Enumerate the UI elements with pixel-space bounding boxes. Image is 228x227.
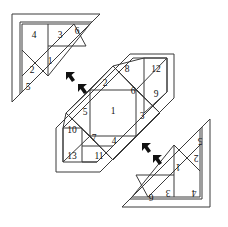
middle-cut-h bbox=[113, 136, 136, 160]
piece-label-md-12: 12 bbox=[151, 64, 161, 74]
piece-label-md-1: 1 bbox=[111, 106, 116, 116]
piece-label-br-2: 2 bbox=[193, 153, 198, 163]
arrow-markers-group bbox=[66, 72, 162, 165]
piece-label-br-5: 5 bbox=[197, 136, 202, 146]
piece-label-br-1: 1 bbox=[175, 162, 180, 172]
piece-label-tl-1: 1 bbox=[48, 56, 53, 66]
piece-label-tl-6: 6 bbox=[75, 26, 80, 36]
piece-label-tl-2: 2 bbox=[30, 65, 35, 75]
arrow-up-left-icon-2 bbox=[78, 84, 87, 94]
piece-label-tl-3: 3 bbox=[58, 30, 63, 40]
piece-label-tl-4: 4 bbox=[32, 30, 37, 40]
piece-label-md-10: 10 bbox=[67, 125, 77, 135]
piece-label-tl-5: 5 bbox=[26, 82, 31, 92]
arrow-up-left-icon-4 bbox=[153, 155, 162, 165]
piece-label-md-7: 7 bbox=[92, 133, 97, 143]
piece-label-md-8: 8 bbox=[125, 64, 130, 74]
piece-label-br-6: 6 bbox=[148, 192, 153, 202]
diagram-canvas: 1 2 3 4 5 6 bbox=[0, 0, 228, 227]
piece-label-md-4: 4 bbox=[112, 136, 117, 146]
top-left-triangle-labels: 1 2 3 4 5 6 bbox=[26, 26, 80, 92]
bottom-right-cut-f bbox=[136, 175, 148, 197]
top-left-cut-g bbox=[48, 24, 90, 76]
arrow-up-left-icon-1 bbox=[66, 72, 75, 82]
piece-label-md-11: 11 bbox=[94, 151, 103, 161]
piece-label-md-3: 3 bbox=[140, 111, 145, 121]
piece-label-md-13: 13 bbox=[67, 151, 77, 161]
piece-label-br-4: 4 bbox=[191, 188, 196, 198]
piece-label-br-3: 3 bbox=[165, 188, 170, 198]
tangram-dissection-diagram: 1 2 3 4 5 6 bbox=[0, 0, 228, 227]
middle-cut-a bbox=[90, 66, 113, 90]
piece-label-md-2: 2 bbox=[103, 78, 108, 88]
piece-label-md-6: 6 bbox=[131, 86, 136, 96]
piece-label-md-9: 9 bbox=[154, 89, 159, 99]
piece-label-md-5: 5 bbox=[83, 107, 88, 117]
arrow-up-left-icon-3 bbox=[142, 143, 151, 153]
